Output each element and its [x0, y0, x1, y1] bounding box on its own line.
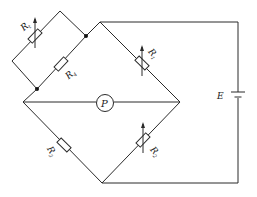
battery-icon — [231, 92, 245, 97]
supply-return-wire — [102, 98, 238, 183]
bridge-circuit-diagram: E Rt R4 R1 R3 R2 — [0, 0, 257, 197]
r4-resistor — [54, 57, 68, 71]
supply-wire — [100, 22, 238, 92]
galvanometer-label: P — [100, 98, 108, 109]
rt-label: Rt — [18, 19, 33, 34]
r1-label: R1 — [145, 46, 160, 61]
r3-label: R3 — [44, 144, 59, 159]
r3-resistor — [57, 138, 71, 152]
battery-label: E — [216, 91, 224, 101]
r2-label: R2 — [147, 144, 162, 159]
junction-dot — [84, 34, 88, 38]
top-left-wire — [86, 22, 100, 36]
left-wire — [23, 89, 37, 102]
r4-label: R4 — [62, 67, 77, 82]
